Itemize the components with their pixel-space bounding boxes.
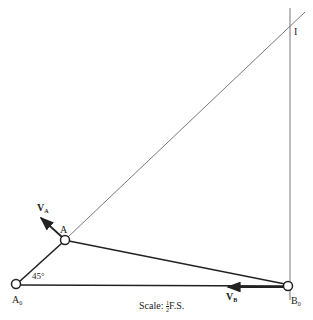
label-a: A — [60, 225, 67, 235]
scale-label: Scale: 12F.S. — [139, 300, 184, 313]
label-va: VA — [37, 203, 49, 214]
ground-link — [20, 285, 284, 286]
label-b0: B0 — [291, 296, 301, 307]
label-a0: A0 — [12, 295, 22, 306]
label-i: I — [294, 27, 297, 37]
pivot-a0 — [12, 280, 21, 289]
label-vb: VB — [226, 292, 237, 303]
joint-a — [61, 236, 70, 245]
coupler-link — [69, 241, 285, 284]
extension-line-a0-i — [68, 12, 305, 237]
pivot-b0 — [284, 282, 293, 291]
angle-label: 45° — [32, 272, 45, 281]
linkage-diagram — [0, 0, 313, 320]
velocity-vector-a — [41, 218, 62, 237]
